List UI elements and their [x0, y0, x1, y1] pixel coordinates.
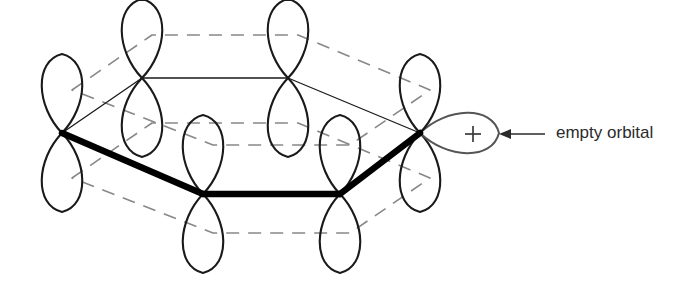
empty-orbital-annotation: empty orbital — [499, 123, 653, 142]
lower-lobe-hexagon-icon — [72, 123, 430, 233]
bond-back-left-to-left — [62, 78, 142, 133]
p-orbital-lobe-down-back-left — [122, 78, 163, 157]
lower-orbital-lobes — [42, 78, 441, 273]
p-orbital-lobe-down-front-left — [183, 194, 224, 273]
empty-orbital-label: empty orbital — [556, 123, 653, 142]
orbital-diagram-canvas: empty orbital — [0, 0, 693, 306]
p-orbital-lobe-up-back-left — [122, 0, 163, 78]
back-bonds — [62, 78, 420, 133]
dashed-guide-hexagons — [72, 35, 430, 233]
front-bonds — [62, 133, 420, 194]
p-orbital-lobe-up-back-right — [268, 0, 309, 78]
p-orbital-lobe-up-front-left — [183, 115, 224, 194]
positive-charge-symbol — [465, 126, 481, 142]
p-orbital-lobe-down-left — [42, 133, 83, 212]
bond-front-right-to-right — [340, 133, 420, 194]
p-orbital-lobe-up-right — [400, 54, 441, 133]
p-orbital-lobe-up-left — [42, 54, 83, 133]
orbital-diagram-svg: empty orbital — [0, 0, 693, 306]
annotation-arrow-head-icon — [499, 129, 511, 139]
